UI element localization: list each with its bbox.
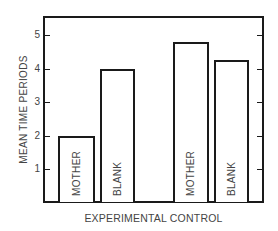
- bar: MOTHER: [58, 136, 95, 202]
- y-tick-label: 2: [30, 131, 40, 141]
- y-tick-left: [43, 35, 50, 36]
- bar: BLANK: [100, 69, 135, 202]
- y-tick-left: [43, 136, 50, 137]
- y-tick-left: [43, 69, 50, 70]
- bar-label: BLANK: [226, 162, 237, 196]
- y-tick-right: [257, 169, 264, 170]
- bar: BLANK: [214, 60, 249, 202]
- y-tick-left: [43, 169, 50, 170]
- y-tick-label: 5: [30, 30, 40, 40]
- y-axis-label: MEAN TIME PERIODS: [18, 45, 29, 175]
- y-tick-right: [257, 69, 264, 70]
- y-tick-right: [257, 136, 264, 137]
- y-tick-left: [43, 102, 50, 103]
- y-tick-right: [257, 35, 264, 36]
- y-tick-right: [257, 102, 264, 103]
- bar: MOTHER: [173, 42, 209, 202]
- y-tick-label: 1: [30, 164, 40, 174]
- bar-label: MOTHER: [185, 151, 196, 196]
- y-tick-label: 3: [30, 97, 40, 107]
- x-axis-label: EXPERIMENTAL CONTROL: [43, 212, 264, 224]
- bar-label: BLANK: [112, 162, 123, 196]
- bar-label: MOTHER: [71, 151, 82, 196]
- y-tick-label: 4: [30, 64, 40, 74]
